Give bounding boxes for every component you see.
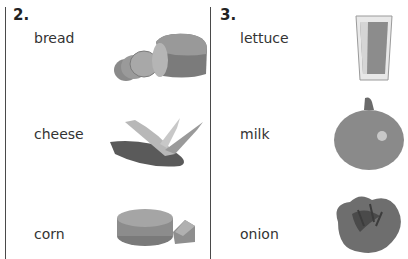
section-number-3: 3. bbox=[220, 6, 236, 24]
corn-husk-image bbox=[105, 114, 205, 174]
left-margin-line bbox=[5, 7, 6, 259]
section-number-2: 2. bbox=[13, 6, 29, 24]
word-cheese: cheese bbox=[34, 126, 84, 142]
bread-loaf-image bbox=[108, 28, 208, 88]
milk-glass-image bbox=[354, 14, 394, 84]
lettuce-image bbox=[330, 192, 405, 257]
column-divider-line bbox=[210, 7, 211, 259]
word-corn: corn bbox=[34, 226, 65, 242]
onion-image bbox=[332, 96, 406, 172]
word-onion: onion bbox=[240, 226, 279, 242]
word-bread: bread bbox=[34, 30, 74, 46]
word-milk: milk bbox=[240, 126, 270, 142]
word-lettuce: lettuce bbox=[240, 30, 289, 46]
cheese-wheel-image bbox=[115, 206, 205, 251]
